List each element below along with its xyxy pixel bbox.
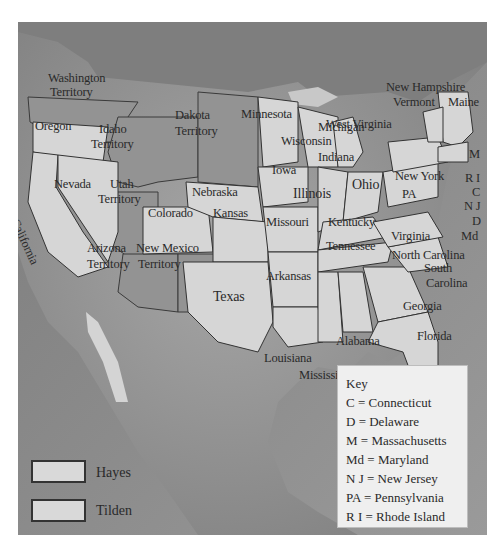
label-illinois: Illinois xyxy=(293,187,331,200)
label-louisiana: Louisiana xyxy=(264,352,312,365)
label-new-mexico-territory: Territory xyxy=(138,258,180,271)
key-item: M = Massachusetts xyxy=(346,431,467,450)
label-pa: PA xyxy=(402,188,416,201)
label-arkansas: Arkansas xyxy=(266,270,311,283)
label-utah-territory: Territory xyxy=(98,193,140,206)
label-nevada: Nevada xyxy=(54,178,91,191)
label-nebraska: Nebraska xyxy=(192,186,238,199)
label-arizona-territory: Territory xyxy=(87,258,129,271)
legend-swatch-hayes xyxy=(31,460,86,483)
key-item: C = Connecticut xyxy=(346,393,467,412)
label-vermont: Vermont xyxy=(393,96,435,109)
label-south-carolina-1: South xyxy=(424,262,452,275)
label-georgia: Georgia xyxy=(403,300,442,313)
legend-label-hayes: Hayes xyxy=(96,465,131,481)
label-idaho-territory: Territory xyxy=(91,138,133,151)
key-item: N J = New Jersey xyxy=(346,469,467,488)
label-texas: Texas xyxy=(213,290,244,303)
label-colorado: Colorado xyxy=(148,207,193,220)
label-idaho: Idaho xyxy=(99,123,126,136)
label-iowa: Iowa xyxy=(272,164,296,177)
label-oregon: Oregon xyxy=(35,120,71,133)
label-maine: Maine xyxy=(448,96,479,109)
label-florida: Florida xyxy=(417,330,452,343)
election-map: Washington Territory Oregon Idaho Territ… xyxy=(18,22,487,535)
label-md: Md xyxy=(461,230,478,243)
label-indiana: Indiana xyxy=(318,151,354,164)
label-dakota-territory: Territory xyxy=(175,125,217,138)
label-alabama: Alabama xyxy=(336,335,380,348)
key-title: Key xyxy=(346,374,467,393)
abbreviation-key: Key C = Connecticut D = Delaware M = Mas… xyxy=(337,365,468,528)
label-c: C xyxy=(472,186,480,199)
label-virginia: Virginia xyxy=(391,230,430,243)
label-missouri: Missouri xyxy=(266,216,309,229)
label-dakota: Dakota xyxy=(175,109,210,122)
label-north-carolina: North Carolina xyxy=(392,249,465,262)
label-washington-territory: Territory xyxy=(50,86,92,99)
label-m: M xyxy=(469,148,480,161)
key-item: R I = Rhode Island xyxy=(346,507,467,526)
key-item: Md = Maryland xyxy=(346,450,467,469)
label-wisconsin: Wisconsin xyxy=(281,135,331,148)
label-utah: Utah xyxy=(110,178,134,191)
label-new-mexico: New Mexico xyxy=(136,242,199,255)
label-washington: Washington xyxy=(48,72,105,85)
label-minnesota: Minnesota xyxy=(241,108,292,121)
label-tennessee: Tennessee xyxy=(326,240,375,253)
legend-label-tilden: Tilden xyxy=(96,503,132,519)
label-arizona: Arizona xyxy=(87,242,126,255)
label-nj: N J xyxy=(464,200,480,213)
label-ri: R I xyxy=(465,172,480,185)
label-kansas: Kansas xyxy=(213,207,248,220)
key-item: D = Delaware xyxy=(346,412,467,431)
label-ohio: Ohio xyxy=(352,178,379,191)
label-new-york: New York xyxy=(395,170,444,183)
label-d: D xyxy=(472,215,481,228)
label-new-hampshire: New Hampshire xyxy=(386,81,465,94)
legend-swatch-tilden xyxy=(31,499,86,522)
label-south-carolina-2: Carolina xyxy=(426,277,467,290)
key-item: PA = Pennsylvania xyxy=(346,488,467,507)
label-west-virginia: West Virginia xyxy=(326,118,392,131)
label-kentucky: Kentucky xyxy=(328,216,375,229)
